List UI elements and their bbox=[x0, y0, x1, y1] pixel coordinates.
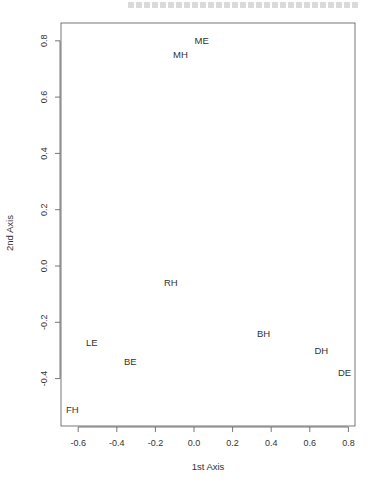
point-label: BH bbox=[257, 328, 270, 339]
y-tick-label: 0.4 bbox=[39, 147, 49, 160]
point-label: MH bbox=[173, 49, 188, 60]
y-axis: -0.4-0.20.00.20.40.60.8 bbox=[39, 35, 60, 387]
y-tick-label: -0.2 bbox=[39, 315, 49, 331]
x-tick-label: 0.2 bbox=[226, 438, 239, 448]
x-axis: -0.6-0.4-0.20.00.20.40.60.8 bbox=[70, 427, 354, 448]
y-tick-label: 0.8 bbox=[39, 35, 49, 48]
point-label: FH bbox=[66, 404, 79, 415]
y-axis-title: 2nd Axis bbox=[4, 215, 15, 251]
point-label: BE bbox=[124, 356, 137, 367]
x-tick-label: 0.0 bbox=[188, 438, 201, 448]
y-tick-label: 0.6 bbox=[39, 91, 49, 104]
point-label: DH bbox=[315, 345, 329, 356]
scatter-chart: -0.6-0.4-0.20.00.20.40.60.8 -0.4-0.20.00… bbox=[0, 0, 373, 483]
y-tick-label: 0.2 bbox=[39, 203, 49, 216]
x-axis-title: 1st Axis bbox=[192, 461, 225, 472]
plot-frame bbox=[61, 23, 355, 426]
x-tick-label: 0.6 bbox=[304, 438, 317, 448]
point-label: ME bbox=[195, 35, 209, 46]
x-tick-label: 0.8 bbox=[342, 438, 355, 448]
x-tick-label: 0.4 bbox=[265, 438, 278, 448]
x-tick-label: -0.4 bbox=[109, 438, 125, 448]
x-tick-label: -0.2 bbox=[148, 438, 164, 448]
point-labels: MEMHRHBHDHDELEBEFH bbox=[66, 35, 351, 415]
y-tick-label: -0.4 bbox=[39, 371, 49, 387]
x-tick-label: -0.6 bbox=[70, 438, 86, 448]
point-label: RH bbox=[164, 277, 178, 288]
y-tick-label: 0.0 bbox=[39, 260, 49, 273]
point-label: DE bbox=[338, 367, 351, 378]
point-label: LE bbox=[86, 337, 98, 348]
